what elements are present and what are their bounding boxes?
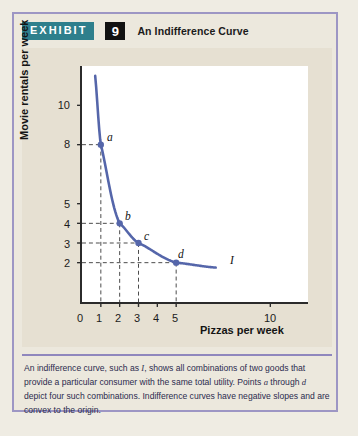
caption-part-4: depict four such combinations. Indiffere…	[24, 391, 330, 415]
y-tick-label-2: 2	[48, 257, 70, 269]
curve-data-points	[98, 141, 180, 265]
data-point-d	[173, 259, 179, 265]
annotation-a: a	[107, 131, 113, 143]
annotation-I: I	[230, 254, 234, 266]
x-tick-label-2: 2	[110, 312, 126, 324]
data-point-c	[135, 240, 141, 246]
y-tick-label-10: 10	[48, 99, 70, 111]
x-tick-label-0: 0	[72, 312, 88, 324]
x-tick-label-3: 3	[129, 312, 145, 324]
exhibit-figure: EXHIBIT 9 An Indifference Curve Movie re…	[12, 12, 338, 412]
y-tick-label-3: 3	[48, 238, 70, 250]
annotation-c: c	[144, 230, 149, 242]
data-point-b	[116, 220, 122, 226]
caption-part-3: through	[268, 377, 302, 387]
y-axis-title: Movie rentals per week	[18, 20, 30, 140]
chart-panel: Movie rentals per week Pizzas per week 2…	[22, 48, 332, 347]
caption-divider	[22, 354, 332, 356]
annotation-d: d	[178, 248, 184, 260]
plot-area	[80, 66, 308, 304]
indifference-curve-line	[95, 76, 216, 268]
x-tick-label-1: 1	[91, 312, 107, 324]
indifference-curve-plot	[82, 66, 308, 302]
data-point-a	[98, 141, 104, 147]
exhibit-tag: EXHIBIT	[22, 22, 94, 40]
annotation-b: b	[125, 210, 131, 222]
x-tick-label-4: 4	[148, 312, 164, 324]
y-tick-label-5: 5	[48, 198, 70, 210]
y-tick-label-4: 4	[48, 218, 70, 230]
dashed-guidelines	[82, 145, 176, 302]
x-axis-title: Pizzas per week	[200, 324, 284, 336]
exhibit-title: An Indifference Curve	[137, 25, 248, 37]
caption-point-d-ref: d	[302, 377, 306, 387]
x-tick-label-10: 10	[262, 312, 278, 324]
x-tick-label-5: 5	[167, 312, 183, 324]
exhibit-header: EXHIBIT 9 An Indifference Curve	[14, 14, 336, 48]
exhibit-caption: An indifference curve, such as I, shows …	[24, 362, 330, 418]
exhibit-number-badge: 9	[105, 22, 125, 40]
y-tick-label-8: 8	[48, 138, 70, 150]
caption-part-1: An indifference curve, such as	[24, 363, 141, 373]
